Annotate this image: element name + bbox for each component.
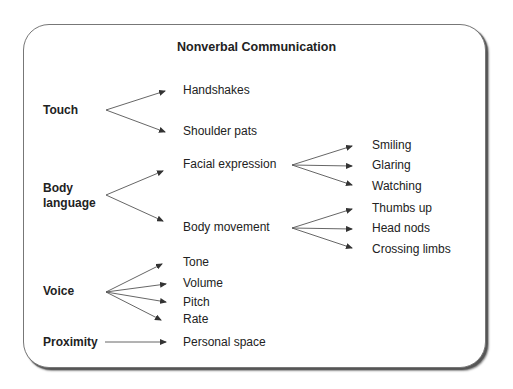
arrow-facial-glaring <box>292 165 352 166</box>
arrow-movement-limbs <box>292 228 352 248</box>
arrow-touch-shoulder-pats <box>106 110 165 132</box>
arrow-body-movement <box>106 195 163 221</box>
arrow-facial-smiling <box>292 146 352 165</box>
arrow-touch-handshakes <box>106 91 165 110</box>
arrow-movement-nods <box>292 228 352 229</box>
arrow-facial-watching <box>292 165 352 185</box>
connector-arrows <box>0 0 513 389</box>
arrow-body-facial <box>106 171 163 195</box>
arrow-movement-thumbs <box>292 209 352 228</box>
arrow-voice-tone <box>106 264 162 292</box>
